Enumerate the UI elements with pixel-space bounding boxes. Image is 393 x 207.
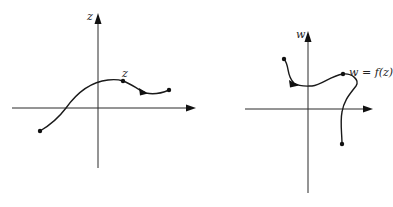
z-plane-end-point [167,88,171,92]
z-plane-path-direction-arrow-icon [139,88,148,96]
z-plane-vertical-arrow-icon [95,13,102,24]
w-point-label: w = f(z) [349,66,393,79]
z-plane-axis-label: z [86,10,93,23]
z-plane-path [40,80,169,131]
w-plane-horizontal-arrow-icon [363,106,373,113]
mapping-diagram: z z w w = f(z) [0,0,393,207]
z-plane-start-point [38,129,42,133]
w-plane-marked-point [341,72,345,76]
w-plane-panel: w w = f(z) [245,28,393,193]
w-plane-start-point [282,57,286,61]
z-plane-horizontal-arrow-icon [186,105,196,112]
w-plane-path-direction-arrow-icon [289,80,299,88]
w-plane-axis-label: w [296,28,306,41]
z-plane-panel: z z [12,10,196,168]
w-plane-end-point [340,142,344,146]
z-point-label: z [121,67,128,80]
w-plane-vertical-arrow-icon [305,31,312,42]
w-plane-path [284,59,357,144]
